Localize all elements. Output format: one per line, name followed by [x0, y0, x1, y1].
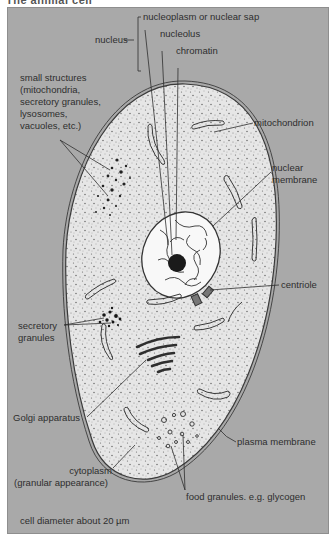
label-cytoplasm-note: (granular appearance) — [14, 477, 108, 489]
nucleolus-graphic — [168, 254, 186, 272]
label-chromatin: chromatin — [176, 45, 218, 57]
label-small-structures: small structures (mitochondria, secretor… — [20, 72, 101, 132]
label-cytoplasm: cytoplasm — [14, 465, 114, 477]
label-mitochondrion: mitochondrion — [254, 117, 314, 129]
label-secretory-granules: secretory granules — [18, 320, 57, 344]
label-nuclear-membrane: nuclear membrane — [272, 162, 317, 186]
label-food-granules: food granules. e.g. glycogen — [186, 491, 305, 503]
label-nucleus: nucleus — [95, 34, 128, 46]
label-golgi-apparatus: Golgi apparatus — [13, 412, 80, 424]
scale-note: cell diameter about 20 µm — [20, 515, 130, 527]
label-plasma-membrane: plasma membrane — [237, 436, 316, 448]
label-centriole: centriole — [281, 279, 317, 291]
label-nucleolus: nucleolus — [160, 28, 200, 40]
label-nucleoplasm: nucleoplasm or nuclear sap — [143, 11, 259, 23]
